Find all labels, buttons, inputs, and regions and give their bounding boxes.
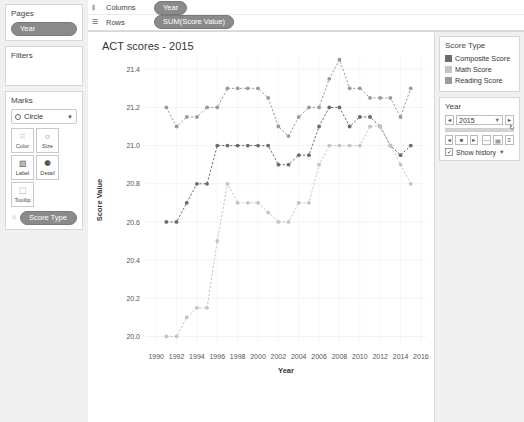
main-area: ⦀ Columns Year ☰ Rows SUM(Score Value) A…: [88, 0, 524, 422]
year-value: 2015: [459, 117, 495, 124]
mark-type-dropdown[interactable]: Circle ▼: [11, 109, 77, 124]
svg-text:21.2: 21.2: [126, 104, 140, 111]
year-value-box[interactable]: 2015 ▼: [456, 115, 503, 125]
detail-icon: ⚈: [44, 160, 51, 169]
svg-text:1994: 1994: [189, 353, 205, 360]
year-stepper-row: ◄ 2015 ▼ ►: [445, 115, 514, 125]
marks-card: Marks Circle ▼ ⁙ Color ○ Size ▧ Label: [5, 91, 83, 230]
visualization-panel[interactable]: ACT scores - 2015 20.020.220.420.620.821…: [88, 32, 434, 422]
legend-item-math[interactable]: Math Score: [445, 65, 514, 74]
marks-encoding-row: ⁙ Score Type: [11, 211, 77, 225]
marks-tooltip-button[interactable]: ⬚ Tooltip: [11, 182, 34, 207]
svg-text:20.8: 20.8: [126, 180, 140, 187]
circle-icon: [15, 114, 21, 120]
svg-text:2000: 2000: [250, 353, 266, 360]
color-encoding-icon: ⁙: [11, 214, 17, 222]
legend-label-reading: Reading Score: [455, 76, 503, 85]
svg-text:2002: 2002: [271, 353, 287, 360]
marks-detail-label: Detail: [40, 170, 54, 176]
svg-text:20.6: 20.6: [126, 219, 140, 226]
speed-fast-button[interactable]: ≡: [505, 135, 514, 145]
shelf-bar: ⦀ Columns Year ☰ Rows SUM(Score Value): [88, 0, 524, 31]
reset-icon[interactable]: ↻: [509, 124, 515, 132]
marks-buttons: ⁙ Color ○ Size ▧ Label ⚈ Detail ⬚ Tool: [11, 128, 77, 207]
svg-text:2006: 2006: [311, 353, 327, 360]
svg-text:2004: 2004: [291, 353, 307, 360]
marks-label-button[interactable]: ▧ Label: [11, 155, 34, 180]
filters-title: Filters: [11, 51, 77, 60]
tableau-window: Pages Year Filters Marks Circle ▼ ⁙ Colo…: [0, 0, 524, 422]
marks-size-label: Size: [42, 143, 53, 149]
rows-label: Rows: [106, 18, 148, 27]
color-icon: ⁙: [19, 133, 26, 142]
svg-text:20.4: 20.4: [126, 257, 140, 264]
pages-card: Pages Year: [5, 4, 83, 41]
pages-title: Pages: [11, 9, 77, 18]
marks-label-label: Label: [16, 170, 30, 176]
play-stop-button[interactable]: ■: [455, 135, 467, 145]
legend-card: Score Type Composite Score Math Score Re…: [439, 36, 520, 92]
marks-color-button[interactable]: ⁙ Color: [11, 128, 34, 153]
legend-item-composite[interactable]: Composite Score: [445, 54, 514, 63]
left-shelf-column: Pages Year Filters Marks Circle ▼ ⁙ Colo…: [0, 0, 88, 422]
svg-text:2012: 2012: [372, 353, 388, 360]
chevron-down-icon[interactable]: ▼: [499, 149, 504, 155]
year-prev-button[interactable]: ◄: [445, 115, 454, 125]
year-filter-card: Year ◄ 2015 ▼ ► ↻: [439, 97, 520, 161]
svg-text:21.0: 21.0: [126, 142, 140, 149]
view-wrapper: ACT scores - 2015 20.020.220.420.620.821…: [88, 31, 524, 422]
chevron-down-icon: ▼: [495, 117, 500, 123]
pages-pill-year[interactable]: Year: [11, 22, 77, 36]
marks-detail-button[interactable]: ⚈ Detail: [36, 155, 59, 180]
line-chart: 20.020.220.420.620.821.021.221.419901992…: [88, 32, 434, 392]
legend-swatch-math: [445, 66, 452, 73]
speed-slow-button[interactable]: —: [482, 135, 491, 145]
legend-swatch-reading: [445, 77, 452, 84]
marks-color-label: Color: [16, 143, 29, 149]
svg-text:Year: Year: [278, 366, 294, 375]
year-slider-wrapper: ↻: [445, 128, 514, 132]
svg-text:1990: 1990: [148, 353, 164, 360]
svg-text:2014: 2014: [393, 353, 409, 360]
svg-text:21.4: 21.4: [126, 66, 140, 73]
rows-shelf[interactable]: ☰ Rows SUM(Score Value): [88, 15, 524, 29]
show-history-row[interactable]: ✓ Show history ▼: [445, 148, 514, 156]
svg-text:1992: 1992: [169, 353, 185, 360]
mark-type-value: Circle: [24, 112, 64, 121]
marks-tooltip-label: Tooltip: [14, 197, 30, 203]
tooltip-icon: ⬚: [19, 187, 27, 196]
svg-text:20.0: 20.0: [126, 333, 140, 340]
play-backward-button[interactable]: ◄: [445, 135, 453, 145]
legend-item-reading[interactable]: Reading Score: [445, 76, 514, 85]
svg-text:20.2: 20.2: [126, 295, 140, 302]
playback-controls: ◄ ■ ► — ▤ ≡: [445, 135, 514, 145]
speed-medium-button[interactable]: ▤: [493, 135, 502, 145]
svg-text:1998: 1998: [230, 353, 246, 360]
marks-size-button[interactable]: ○ Size: [36, 128, 59, 153]
chevron-down-icon: ▼: [67, 114, 73, 120]
columns-label: Columns: [106, 3, 148, 12]
show-history-checkbox[interactable]: ✓: [445, 148, 453, 156]
svg-text:2016: 2016: [413, 353, 429, 360]
year-filter-title: Year: [445, 102, 514, 111]
svg-text:2010: 2010: [352, 353, 368, 360]
columns-pill-year[interactable]: Year: [154, 1, 187, 15]
columns-icon: ⦀: [92, 4, 100, 12]
legend-label-composite: Composite Score: [455, 54, 510, 63]
show-history-label: Show history: [456, 149, 496, 156]
svg-text:1996: 1996: [209, 353, 225, 360]
legend-swatch-composite: [445, 55, 452, 62]
columns-shelf[interactable]: ⦀ Columns Year: [88, 1, 524, 15]
right-panel: Score Type Composite Score Math Score Re…: [434, 32, 524, 422]
rows-pill-score-value[interactable]: SUM(Score Value): [154, 15, 234, 29]
plot-host: 20.020.220.420.620.821.021.221.419901992…: [88, 32, 434, 422]
play-forward-button[interactable]: ►: [470, 135, 478, 145]
filters-card[interactable]: Filters: [5, 46, 83, 86]
legend-title: Score Type: [445, 41, 514, 50]
marks-title: Marks: [11, 96, 77, 105]
label-icon: ▧: [19, 160, 27, 169]
svg-text:Score Value: Score Value: [95, 179, 104, 222]
year-slider-track[interactable]: [445, 128, 514, 132]
marks-pill-score-type[interactable]: Score Type: [20, 211, 77, 225]
legend-label-math: Math Score: [455, 65, 492, 74]
